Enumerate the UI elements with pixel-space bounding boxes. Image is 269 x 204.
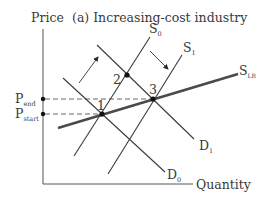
long-run-supply-label: SLR <box>239 63 257 79</box>
supply-s1-label: S1 <box>183 40 196 57</box>
supply-shift-arrow <box>150 51 168 69</box>
equilibrium-point-3 <box>150 96 155 101</box>
increasing-cost-industry-diagram: (a) Increasing-cost industry Price Quant… <box>0 0 269 204</box>
point-1-label: 1 <box>97 98 105 113</box>
equilibrium-point-2 <box>124 72 129 77</box>
long-run-supply-curve <box>58 74 238 128</box>
price-end-main: P <box>15 91 23 106</box>
price-end-marker <box>41 97 45 101</box>
supply-curve-s0 <box>74 37 150 156</box>
price-start-label: Pstart <box>15 106 39 123</box>
diagram-title: (a) Increasing-cost industry <box>72 10 248 25</box>
y-axis-label: Price <box>31 10 64 25</box>
point-3-label: 3 <box>149 82 157 97</box>
price-start-sub: start <box>23 115 39 123</box>
x-axis-label: Quantity <box>196 177 252 192</box>
price-start-marker <box>41 112 45 116</box>
svg-text:Pstart: Pstart <box>15 106 39 123</box>
demand-d1-label: D1 <box>199 138 213 155</box>
demand-shift-arrow <box>79 57 98 83</box>
price-start-main: P <box>15 106 23 121</box>
point-2-label: 2 <box>113 72 121 87</box>
price-end-sub: end <box>23 100 35 108</box>
demand-d0-label: D0 <box>167 167 181 184</box>
